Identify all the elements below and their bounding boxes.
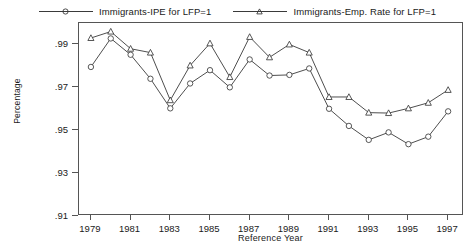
- data-point-triangle: [445, 87, 451, 93]
- x-tick-mark: [249, 215, 250, 220]
- triangle-marker-icon: [233, 6, 287, 17]
- data-point-circle: [445, 109, 450, 114]
- y-tick-label: .95: [55, 124, 68, 135]
- legend-entry-ipe: Immigrants-IPE for LFP=1: [39, 6, 211, 17]
- x-axis: 1979198119831985198719891991199319951997: [78, 215, 463, 235]
- y-tick-label: .99: [55, 38, 68, 49]
- data-point-triangle: [425, 100, 431, 106]
- data-point-triangle: [207, 40, 213, 46]
- data-point-circle: [346, 123, 351, 128]
- data-point-circle: [267, 73, 272, 78]
- data-point-circle: [307, 66, 312, 71]
- series-line: [91, 32, 448, 113]
- data-point-circle: [148, 76, 153, 81]
- legend-label-emp-rate: Immigrants-Emp. Rate for LFP=1: [287, 6, 436, 17]
- circle-marker-icon: [39, 6, 93, 17]
- x-tick-mark: [407, 215, 408, 220]
- data-point-circle: [247, 57, 252, 62]
- x-tick-mark: [169, 215, 170, 220]
- x-tick-mark: [328, 215, 329, 220]
- chart-figure: Immigrants-IPE for LFP=1 Immigrants-Emp.…: [0, 0, 475, 250]
- data-point-circle: [187, 81, 192, 86]
- data-point-circle: [406, 141, 411, 146]
- data-point-circle: [168, 106, 173, 111]
- series-ipe: [88, 36, 451, 147]
- data-point-circle: [287, 72, 292, 77]
- data-point-triangle: [167, 97, 173, 103]
- data-point-circle: [326, 106, 331, 111]
- x-tick-mark: [368, 215, 369, 220]
- data-point-circle: [207, 67, 212, 72]
- data-point-circle: [426, 134, 431, 139]
- y-tick-label: .97: [55, 81, 68, 92]
- x-tick-mark: [288, 215, 289, 220]
- y-tick-label: .91: [55, 210, 68, 221]
- data-point-circle: [366, 137, 371, 142]
- y-tick-label: .93: [55, 167, 68, 178]
- x-tick-mark: [209, 215, 210, 220]
- chart-legend: Immigrants-IPE for LFP=1 Immigrants-Emp.…: [0, 2, 475, 20]
- data-point-triangle: [286, 41, 292, 47]
- x-tick-mark: [447, 215, 448, 220]
- series-canvas: [79, 23, 464, 216]
- data-point-triangle: [108, 28, 114, 34]
- x-tick-mark: [130, 215, 131, 220]
- legend-entry-emp-rate: Immigrants-Emp. Rate for LFP=1: [233, 6, 436, 17]
- y-axis-title: Percentage: [12, 56, 22, 146]
- x-axis-title: Reference Year: [78, 233, 463, 243]
- data-point-circle: [386, 130, 391, 135]
- data-point-triangle: [227, 74, 233, 80]
- data-point-triangle: [306, 49, 312, 55]
- series-emp-rate: [88, 28, 451, 115]
- plot-area: [78, 22, 463, 215]
- data-point-circle: [227, 85, 232, 90]
- data-point-triangle: [247, 34, 253, 40]
- legend-label-ipe: Immigrants-IPE for LFP=1: [93, 6, 211, 17]
- data-point-circle: [88, 64, 93, 69]
- data-point-circle: [128, 52, 133, 57]
- x-tick-mark: [90, 215, 91, 220]
- data-point-circle: [108, 36, 113, 41]
